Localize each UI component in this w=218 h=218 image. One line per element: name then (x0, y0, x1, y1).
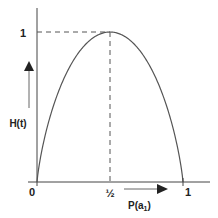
x-tick-label-half: ½ (105, 187, 114, 199)
y-axis-title: H(t) (9, 118, 26, 129)
y-tick-label-one: 1 (20, 27, 26, 39)
x-axis-title: P(a1) (128, 200, 151, 212)
arrow-up-icon (24, 61, 34, 71)
x-axis-title-close: ) (147, 200, 150, 211)
arrow-right-icon (157, 184, 168, 194)
x-tick-label-zero: 0 (29, 186, 35, 198)
x-axis-title-main: P(a (128, 200, 144, 211)
entropy-diagram: 1 H(t) 0 ½ 1 P(a1) (0, 0, 218, 218)
x-tick-label-one: 1 (185, 186, 191, 198)
